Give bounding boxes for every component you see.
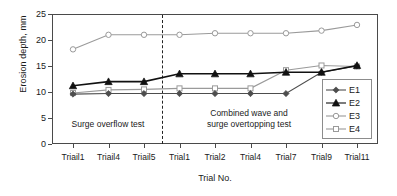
y-tick-label: 10: [22, 88, 46, 97]
y-tick-label: 0: [22, 140, 46, 149]
legend-marker-e3-icon: [325, 110, 347, 122]
legend-marker-e2-icon: [325, 97, 347, 109]
annotation-combined-wave: Combined wave andsurge overtopping test: [176, 108, 322, 130]
annotation-line: surge overtopping test: [176, 119, 322, 130]
legend-marker-e1-icon: [325, 84, 347, 96]
x-tick-mark: [109, 144, 110, 148]
annotation-line: Surge overflow test: [56, 119, 160, 130]
legend-item-e3[interactable]: E3: [325, 109, 368, 122]
x-tick-mark: [215, 144, 216, 148]
x-tick-mark: [286, 144, 287, 148]
y-tick-mark: [48, 144, 52, 145]
x-tick-mark: [251, 144, 252, 148]
annotation-surge-overflow: Surge overflow test: [56, 119, 160, 130]
x-tick-label: Trial11: [327, 152, 387, 162]
legend-item-e4[interactable]: E4: [325, 122, 368, 135]
legend-item-e1[interactable]: E1: [325, 83, 368, 96]
x-tick-mark: [322, 144, 323, 148]
legend-item-e2[interactable]: E2: [325, 96, 368, 109]
x-tick-mark: [73, 144, 74, 148]
x-tick-mark: [357, 144, 358, 148]
y-tick-label: 20: [22, 36, 46, 45]
y-tick-label: 15: [22, 62, 46, 71]
legend-label: E2: [347, 98, 360, 108]
x-tick-mark: [144, 144, 145, 148]
legend-marker-e4-icon: [325, 123, 347, 135]
phase-divider-line: [162, 15, 163, 144]
legend-label: E3: [347, 111, 360, 121]
erosion-depth-chart: Erosion depth, mm Trial No. 0510152025 T…: [0, 0, 397, 196]
annotation-line: Combined wave and: [176, 108, 322, 119]
x-axis-label: Trial No.: [52, 173, 378, 183]
chart-legend: E1E2E3E4: [322, 79, 372, 139]
y-tick-label: 25: [22, 10, 46, 19]
x-tick-mark: [180, 144, 181, 148]
legend-label: E4: [347, 124, 360, 134]
legend-label: E1: [347, 85, 360, 95]
y-tick-label: 5: [22, 114, 46, 123]
